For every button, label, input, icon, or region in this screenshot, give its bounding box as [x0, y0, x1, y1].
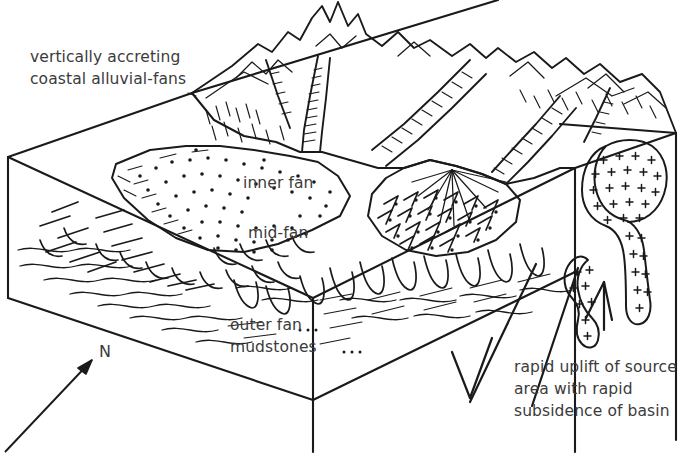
text-labels: vertically accreting coastal alluvial-fa… — [30, 48, 677, 420]
canyon-hachure-4 — [270, 72, 291, 114]
canyon-hachure-2 — [382, 72, 472, 152]
second-fan — [368, 160, 520, 256]
north-arrow — [5, 360, 92, 452]
second-fan-debris — [378, 190, 498, 252]
label-vertically-accreting-line1: vertically accreting — [30, 48, 180, 66]
label-outer-fan-line2: mudstones — [230, 338, 317, 356]
granite-pluton — [565, 140, 667, 347]
label-outer-fan-line1: outer fan — [230, 316, 302, 334]
label-rapid-uplift-line1: rapid uplift of source — [514, 358, 677, 376]
mountain-front-boundary — [192, 93, 575, 184]
canyon-hachure-3 — [494, 108, 562, 174]
diagram-canvas: vertically accreting coastal alluvial-fa… — [0, 0, 690, 457]
distal-lobes — [234, 244, 544, 314]
block-diagram-figure: vertically accreting coastal alluvial-fa… — [0, 0, 690, 457]
feeder-canyons — [206, 56, 656, 184]
label-inner-fan: inner fan — [243, 174, 313, 192]
inner-fan-lobe — [112, 146, 350, 254]
mountain-range — [192, 2, 676, 133]
label-rapid-uplift-line2: area with rapid — [514, 380, 633, 398]
label-rapid-uplift-line3: subsidence of basin — [514, 402, 670, 420]
slope-hachure-right — [520, 90, 656, 118]
label-north: N — [99, 342, 111, 361]
label-mid-fan: mid-fan — [248, 224, 308, 242]
fault-plane — [575, 133, 676, 168]
label-vertically-accreting-line2: coastal alluvial-fans — [30, 70, 186, 88]
